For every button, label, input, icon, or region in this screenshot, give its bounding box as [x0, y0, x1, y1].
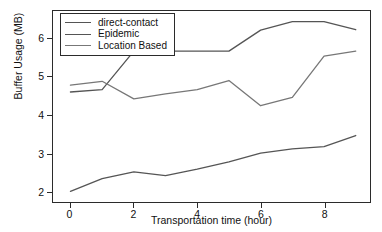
legend-item[interactable]: direct-contact [65, 17, 167, 29]
legend-label: Epidemic [98, 29, 139, 39]
x-tick-label: 0 [67, 209, 73, 220]
legend-item[interactable]: Location Based [65, 40, 167, 52]
legend-item[interactable]: Epidemic [65, 29, 167, 41]
legend-swatch [65, 34, 91, 35]
legend-label: Location Based [98, 41, 167, 51]
legend-swatch [65, 45, 91, 46]
x-tick-label: 6 [258, 209, 264, 220]
x-tick-label: 8 [322, 209, 328, 220]
x-axis-ticks: 02468 [52, 203, 371, 227]
x-tick-label: 2 [130, 209, 136, 220]
y-axis-ticks: 23456 [0, 10, 52, 203]
y-tick-label: 2 [38, 187, 44, 198]
series-line [70, 136, 355, 192]
y-tick-label: 4 [38, 110, 44, 121]
series-line [70, 51, 355, 106]
legend-swatch [65, 22, 91, 23]
legend-label: direct-contact [98, 18, 158, 28]
y-tick-label: 6 [38, 33, 44, 44]
x-tick-label: 4 [194, 209, 200, 220]
y-tick-label: 3 [38, 148, 44, 159]
legend: direct-contactEpidemicLocation Based [60, 13, 175, 56]
y-tick-label: 5 [38, 71, 44, 82]
chart-figure: Buffer Usage (MB) Transportation time (h… [0, 0, 382, 232]
